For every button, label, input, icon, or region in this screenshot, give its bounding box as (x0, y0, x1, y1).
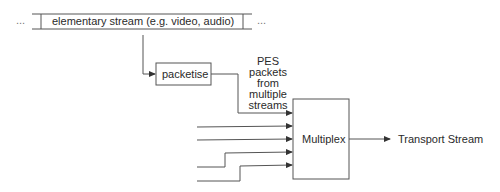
multiplex-label: Multiplex (302, 133, 345, 145)
stream-left-ellipsis: ... (16, 14, 25, 26)
input-stream-arrow-2 (197, 139, 292, 140)
transport-stream-label: Transport Stream (398, 133, 483, 145)
stream-to-packetise-arrow (143, 35, 155, 74)
pes-note-line: streams (246, 100, 290, 111)
input-stream-arrow-3 (197, 152, 292, 167)
stream-right-ellipsis: ... (257, 14, 266, 26)
input-stream-arrow-1 (197, 126, 292, 127)
packetise-label: packetise (162, 68, 208, 80)
pes-note: PES packets from multiple streams (246, 56, 290, 111)
stream-bar-label: elementary stream (e.g. video, audio) (52, 15, 234, 27)
